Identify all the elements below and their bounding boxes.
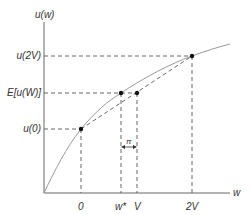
- point-2v: [190, 54, 194, 58]
- utility-diagram: [0, 0, 250, 215]
- clipped-caption: [0, 209, 250, 215]
- risk-premium-label: π: [126, 137, 131, 147]
- y-axis-label: u(w): [35, 10, 54, 20]
- point-u0: [79, 127, 83, 131]
- y-tick-u2v: u(2V): [1, 51, 41, 61]
- y-tick-eu: E[u(W)]: [1, 88, 41, 98]
- y-tick-u0: u(0): [1, 124, 41, 134]
- point-v: [135, 91, 139, 95]
- arrowhead-right-icon: [133, 145, 137, 149]
- x-axis-label: w: [233, 188, 240, 198]
- point-wstar: [119, 91, 123, 95]
- arrowhead-left-icon: [121, 145, 125, 149]
